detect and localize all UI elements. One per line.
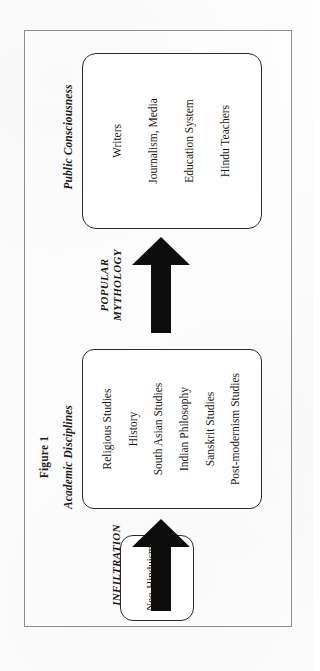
- list-item: History: [127, 358, 141, 500]
- public-consciousness-list: Writers Journalism, Media Education Syst…: [89, 62, 255, 220]
- popular-mythology-arrow-label: POPULAR MYTHOLOGY: [98, 229, 123, 341]
- popular-mythology-label-line-2: MYTHOLOGY: [111, 229, 124, 341]
- arrow-shaft: [151, 547, 171, 611]
- page-title: Figure 1: [38, 367, 50, 547]
- public-consciousness-box: Writers Journalism, Media Education Syst…: [82, 53, 262, 229]
- list-item: Education System: [183, 62, 197, 220]
- list-item: Indian Philosophy: [178, 358, 192, 500]
- list-item: South Asian Studies: [152, 358, 166, 500]
- list-item: Journalism, Media: [147, 62, 161, 220]
- academic-disciplines-caption: Academic Disciplines: [62, 367, 74, 547]
- figure-canvas: Figure 1 Academic Disciplines Public Con…: [24, 30, 292, 627]
- list-item: Hindu Teachers: [219, 62, 233, 220]
- infiltration-arrow-icon: [132, 519, 190, 611]
- academic-disciplines-list: Religious Studies History South Asian St…: [89, 358, 255, 500]
- rotated-figure-stage: Figure 1 Academic Disciplines Public Con…: [24, 30, 292, 627]
- academic-disciplines-box: Religious Studies History South Asian St…: [82, 349, 262, 509]
- list-item: Sanskrit Studies: [204, 358, 218, 500]
- list-item: Post-modernism Studies: [229, 358, 243, 500]
- list-item: Writers: [111, 62, 125, 220]
- popular-mythology-arrow-icon: [132, 237, 190, 333]
- list-item: Religious Studies: [101, 358, 115, 500]
- arrow-shaft: [151, 265, 171, 333]
- arrow-head: [132, 237, 190, 265]
- public-consciousness-caption: Public Consciousness: [62, 47, 74, 227]
- infiltration-arrow-label: INFILTRATION: [110, 511, 123, 619]
- arrow-head: [132, 519, 190, 547]
- popular-mythology-label-line-1: POPULAR: [98, 229, 111, 341]
